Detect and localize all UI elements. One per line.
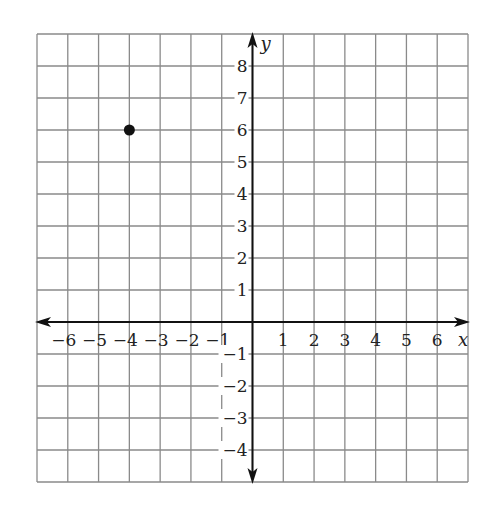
data-point xyxy=(124,125,135,136)
x-tick-label: −4 xyxy=(113,330,138,350)
y-tick-label: 7 xyxy=(237,88,248,108)
y-tick-label: 1 xyxy=(237,280,248,300)
y-tick-label: 8 xyxy=(237,56,248,76)
y-tick-label: 3 xyxy=(237,216,248,236)
y-axis-label: y xyxy=(260,33,272,54)
x-tick-label: 4 xyxy=(370,330,381,350)
y-tick-label: 6 xyxy=(237,120,248,140)
x-tick-label: 3 xyxy=(339,330,350,350)
y-tick-label: −2 xyxy=(222,376,247,396)
x-tick-label: 6 xyxy=(432,330,443,350)
x-tick-label: −5 xyxy=(82,330,107,350)
y-tick-label: 2 xyxy=(237,248,248,268)
x-tick-label: 2 xyxy=(309,330,320,350)
coordinate-plane: −6−5−4−3−2−112345687654321−1−2−3−4xy xyxy=(0,0,492,514)
y-tick-label: 4 xyxy=(237,184,248,204)
x-tick-label: 5 xyxy=(401,330,412,350)
x-tick-label: 1 xyxy=(278,330,289,350)
y-tick-label: −1 xyxy=(222,344,247,364)
y-tick-label: −3 xyxy=(222,408,247,428)
data-points xyxy=(124,125,135,136)
y-tick-label: −4 xyxy=(222,440,247,460)
y-tick-label: 5 xyxy=(237,152,248,172)
x-tick-label: −6 xyxy=(51,330,76,350)
x-tick-label: −2 xyxy=(174,330,199,350)
tick-labels: −6−5−4−3−2−112345687654321−1−2−3−4xy xyxy=(51,33,468,460)
x-axis-label: x xyxy=(458,329,468,350)
x-tick-label: −3 xyxy=(144,330,169,350)
